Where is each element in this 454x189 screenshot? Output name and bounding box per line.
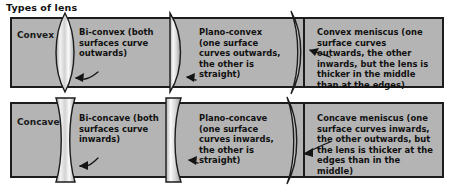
row-label-concave: Concave <box>17 117 60 127</box>
caption-concave-meniscus: Concave meniscus (one surface curves inw… <box>317 113 435 177</box>
caption-plano-concave: Plano-concave (one surface curves inward… <box>199 113 285 166</box>
caption-plano-convex: Plano-convex (one surface curves outward… <box>199 27 285 80</box>
caption-bi-convex: Bi-convex (both surfaces curve outwards) <box>79 27 187 59</box>
caption-convex-meniscus: Convex meniscus (one surface curves outw… <box>317 27 435 91</box>
lens-types-diagram: Types of lens Convex Bi-convex (both sur… <box>0 0 454 189</box>
diagram-title: Types of lens <box>6 2 77 13</box>
row-label-convex: Convex <box>17 30 54 40</box>
caption-bi-concave: Bi-concave (both surfaces curve inwards) <box>79 113 187 145</box>
